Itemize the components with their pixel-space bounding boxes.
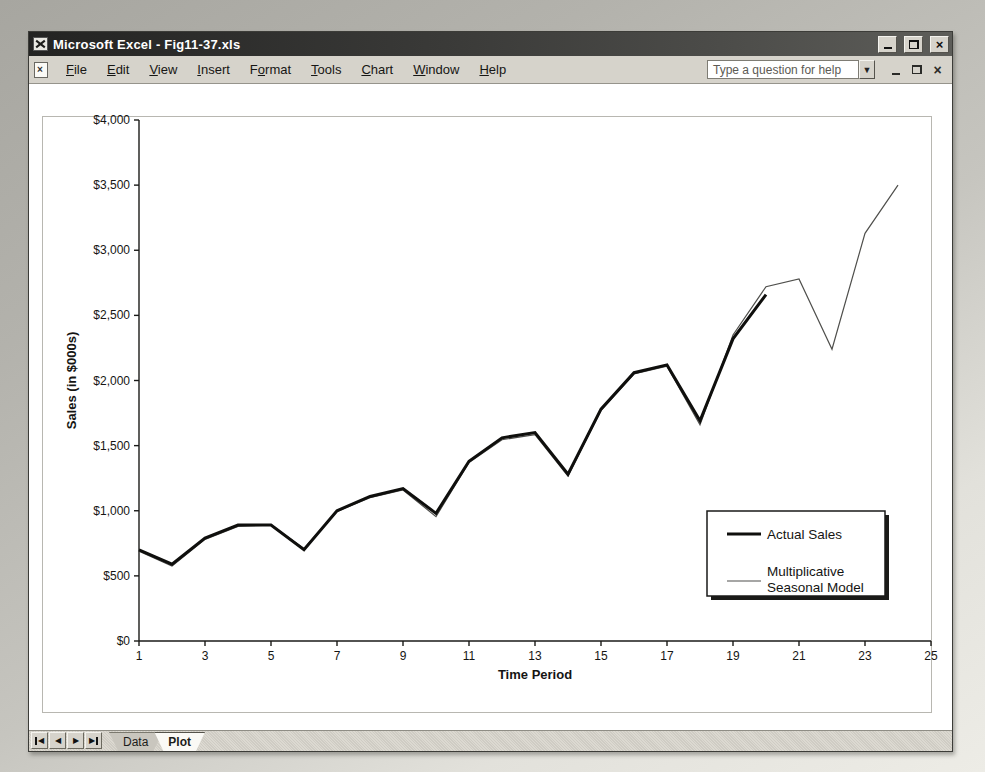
- help-question-box[interactable]: Type a question for help: [707, 60, 859, 79]
- y-tick-label-500: $500: [103, 569, 130, 583]
- x-tick-label-3: 3: [202, 649, 209, 663]
- legend-label-model-line2: Seasonal Model: [767, 580, 864, 595]
- menu-item-insert[interactable]: Insert: [187, 58, 240, 81]
- sales-line-chart[interactable]: $0$500$1,000$1,500$2,000$2,500$3,000$3,5…: [29, 84, 952, 730]
- document-restore-button[interactable]: [908, 61, 925, 78]
- menu-item-file[interactable]: File: [56, 58, 97, 81]
- menu-item-tools[interactable]: Tools: [301, 58, 351, 81]
- y-tick-label-2000: $2,000: [93, 374, 130, 388]
- menu-bar: FileEditViewInsertFormatToolsChartWindow…: [29, 56, 952, 84]
- series-line-actual-sales[interactable]: [139, 295, 766, 565]
- y-tick-label-3500: $3,500: [93, 178, 130, 192]
- minimize-button[interactable]: [878, 36, 897, 53]
- chevron-down-icon: ▼: [863, 65, 872, 75]
- close-icon: ×: [933, 63, 941, 77]
- x-tick-label-25: 25: [924, 649, 938, 663]
- last-sheet-icon: ▶: [89, 737, 98, 745]
- menu-item-view[interactable]: View: [139, 58, 187, 81]
- minimize-icon: [884, 47, 892, 49]
- sheet-tab-plot[interactable]: Plot: [154, 732, 205, 751]
- excel-window: Microsoft Excel - Fig11-37.xls × FileEdi…: [28, 31, 953, 752]
- menu-item-chart[interactable]: Chart: [351, 58, 403, 81]
- y-tick-label-0: $0: [117, 634, 131, 648]
- help-combo-arrow-button[interactable]: ▼: [859, 60, 875, 79]
- document-close-button[interactable]: ×: [929, 61, 946, 78]
- sheet-tab-data[interactable]: Data: [109, 732, 162, 751]
- menu-item-format[interactable]: Format: [240, 58, 301, 81]
- menu-item-help[interactable]: Help: [469, 58, 516, 81]
- x-tick-label-17: 17: [660, 649, 674, 663]
- window-title: Microsoft Excel - Fig11-37.xls: [53, 37, 873, 52]
- y-tick-label-4000: $4,000: [93, 113, 130, 127]
- close-icon: ×: [936, 38, 944, 51]
- x-tick-label-1: 1: [136, 649, 143, 663]
- menu-item-edit[interactable]: Edit: [97, 58, 139, 81]
- workbook-icon: [34, 62, 48, 78]
- next-sheet-icon: ▶: [73, 736, 79, 745]
- x-tick-label-5: 5: [268, 649, 275, 663]
- sheet-tab-bar: ◀◀▶▶DataPlot: [29, 730, 952, 751]
- x-tick-label-19: 19: [726, 649, 740, 663]
- previous-sheet-icon: ◀: [55, 736, 61, 745]
- y-tick-label-2500: $2,500: [93, 308, 130, 322]
- minimize-icon: [892, 73, 900, 75]
- y-tick-label-3000: $3,000: [93, 243, 130, 257]
- restore-icon: [909, 40, 919, 49]
- chart-legend[interactable]: Actual SalesMultiplicativeSeasonal Model: [707, 511, 889, 600]
- y-axis-title: Sales (in $000s): [64, 332, 79, 430]
- x-axis-title: Time Period: [498, 667, 572, 682]
- close-button[interactable]: ×: [930, 36, 949, 53]
- y-tick-label-1000: $1,000: [93, 504, 130, 518]
- next-sheet-button[interactable]: ▶: [67, 732, 84, 749]
- x-tick-label-7: 7: [334, 649, 341, 663]
- first-sheet-icon: ◀: [35, 737, 44, 745]
- first-sheet-button[interactable]: ◀: [31, 732, 48, 749]
- x-tick-label-23: 23: [858, 649, 872, 663]
- x-tick-label-15: 15: [594, 649, 608, 663]
- menu-item-window[interactable]: Window: [403, 58, 469, 81]
- x-tick-label-13: 13: [528, 649, 542, 663]
- menu-items: FileEditViewInsertFormatToolsChartWindow…: [56, 58, 516, 81]
- x-tick-label-9: 9: [400, 649, 407, 663]
- restore-icon: [912, 65, 922, 74]
- legend-label-actual-sales: Actual Sales: [767, 527, 842, 542]
- series-line-multiplicative-seasonal-model[interactable]: [139, 185, 898, 566]
- legend-label-model-line1: Multiplicative: [767, 564, 844, 579]
- y-tick-label-1500: $1,500: [93, 439, 130, 453]
- x-tick-label-21: 21: [792, 649, 806, 663]
- last-sheet-button[interactable]: ▶: [85, 732, 102, 749]
- title-bar: Microsoft Excel - Fig11-37.xls ×: [29, 32, 952, 56]
- x-tick-label-11: 11: [463, 649, 476, 663]
- document-minimize-button[interactable]: [887, 61, 904, 78]
- chart-sheet: $0$500$1,000$1,500$2,000$2,500$3,000$3,5…: [29, 84, 952, 730]
- previous-sheet-button[interactable]: ◀: [49, 732, 66, 749]
- restore-button[interactable]: [904, 36, 923, 53]
- excel-app-icon: [33, 37, 48, 51]
